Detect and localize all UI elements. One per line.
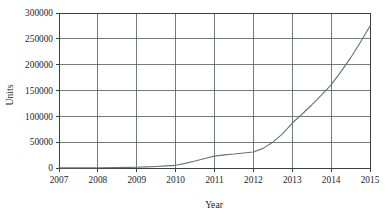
x-axis-tick-marks [59,168,370,172]
line-chart-svg: 050000100000150000200000250000300000 200… [0,0,389,214]
y-tick-label: 50000 [30,137,54,147]
x-tick-label: 2014 [322,175,341,185]
y-tick-label: 200000 [25,60,53,70]
x-tick-label: 2013 [283,175,302,185]
y-tick-label: 100000 [25,112,53,122]
x-axis-title: Year [205,199,223,210]
x-tick-label: 2015 [361,175,380,185]
x-tick-label: 2012 [244,175,263,185]
y-axis-tick-labels: 050000100000150000200000250000300000 [25,8,53,173]
x-tick-label: 2007 [50,175,69,185]
x-tick-label: 2008 [89,175,108,185]
y-tick-label: 300000 [25,8,53,18]
x-axis-tick-labels: 200720082009201020112012201320142015 [50,175,380,185]
x-tick-label: 2011 [205,175,224,185]
chart-container: 050000100000150000200000250000300000 200… [0,0,389,214]
y-tick-label: 0 [48,163,53,173]
x-tick-label: 2009 [127,175,146,185]
y-tick-label: 150000 [25,86,53,96]
y-axis-title: Units [4,84,15,105]
x-tick-label: 2010 [166,175,185,185]
y-axis-tick-marks [56,13,60,168]
y-tick-label: 250000 [25,34,53,44]
